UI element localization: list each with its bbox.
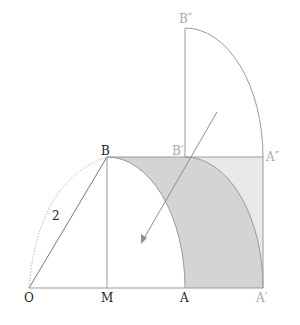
label-length-2: 2	[52, 209, 60, 223]
label-A-prime: A′	[255, 291, 268, 305]
label-A: A	[179, 291, 189, 305]
label-M: M	[101, 291, 113, 305]
label-B: B	[101, 144, 110, 158]
geometry-diagram: O M A A′ B B′ A″ B″ 2	[0, 0, 300, 325]
label-B-prime: B′	[172, 144, 184, 158]
label-O: O	[24, 291, 34, 305]
arc-B-dprime-A-dprime	[185, 28, 263, 157]
label-B-dprime: B″	[179, 12, 193, 26]
segment-OB	[29, 157, 107, 288]
label-A-dprime: A″	[265, 150, 280, 164]
